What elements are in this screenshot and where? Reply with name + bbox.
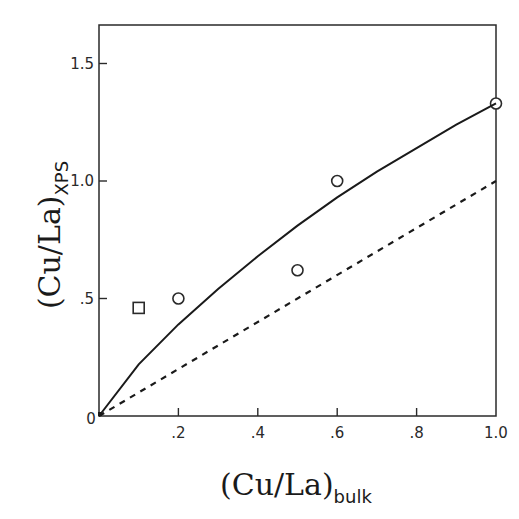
y-tick-label: 1.5 <box>70 55 94 73</box>
x-axis-label: (Cu/La) <box>220 467 334 502</box>
y-axis-subscript: XPS <box>51 161 72 196</box>
data-point-circle <box>173 293 184 304</box>
y-axis-title: (Cu/La)XPS <box>32 161 72 309</box>
data-point-circle <box>332 176 343 187</box>
x-tick-label: .8 <box>409 424 423 442</box>
y-axis-label: (Cu/La) <box>32 196 67 310</box>
data-point-square <box>133 302 144 313</box>
x-tick-label: .6 <box>330 424 344 442</box>
x-tick-label: .4 <box>251 424 265 442</box>
y-tick-label: .5 <box>80 290 94 308</box>
origin-marker <box>98 412 102 416</box>
svg-text:(Cu/La)XPS: (Cu/La)XPS <box>32 161 72 309</box>
x-axis-ticks: 0.2.4.6.81.0 <box>86 408 508 442</box>
x-tick-label: 1.0 <box>484 424 508 442</box>
plot-series <box>98 98 502 416</box>
reference-line <box>99 181 496 416</box>
data-point-circle <box>292 265 303 276</box>
x-tick-label: 0 <box>86 410 96 428</box>
x-axis-subscript: bulk <box>334 486 373 507</box>
y-tick-label: 1.0 <box>70 172 94 190</box>
y-axis-ticks: .51.01.5 <box>70 55 107 308</box>
x-tick-label: .2 <box>171 424 185 442</box>
x-axis-title: (Cu/La)bulk <box>220 467 372 507</box>
plot-frame <box>99 25 496 416</box>
chart: 0.2.4.6.81.0 .51.01.5 (Cu/La)XPS (Cu/La)… <box>0 0 519 519</box>
fit-curve <box>99 103 496 416</box>
